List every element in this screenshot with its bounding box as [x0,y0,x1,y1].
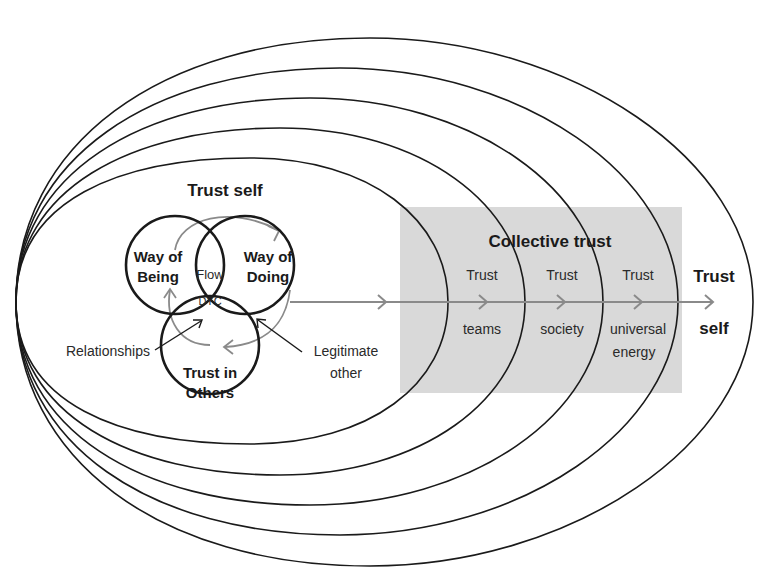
legitimate-other-label: Legitimate [314,343,379,359]
trust-teams-bottom: teams [463,321,501,337]
way-of-being-label: Way of [134,248,184,265]
relationships-label: Relationships [66,343,150,359]
trust-universal-top: Trust [622,267,653,283]
way-of-doing-label: Way of [244,248,294,265]
trust-in-others-label: Trust in [183,364,237,381]
trust-society-top: Trust [546,267,577,283]
way-of-being-label-2: Being [137,268,179,285]
collective-trust-heading: Collective trust [489,232,612,251]
flow-label: Flow [196,267,224,282]
trust-universal-bottom-2: energy [613,344,656,360]
trust-society-bottom: society [540,321,584,337]
outer-trust-label: Trust [693,267,735,286]
trust-diagram: Trust self Way of Being Way of Doing Flo… [0,0,770,581]
outer-self-label: self [699,319,729,338]
trust-self-heading: Trust self [187,181,263,200]
legitimate-other-label-2: other [330,365,362,381]
trust-in-others-label-2: Others [186,384,234,401]
dyc-label: DYC [198,295,221,307]
trust-universal-bottom: universal [610,321,666,337]
cycle-arrows [164,217,290,354]
trust-teams-top: Trust [466,267,497,283]
way-of-doing-label-2: Doing [247,268,290,285]
